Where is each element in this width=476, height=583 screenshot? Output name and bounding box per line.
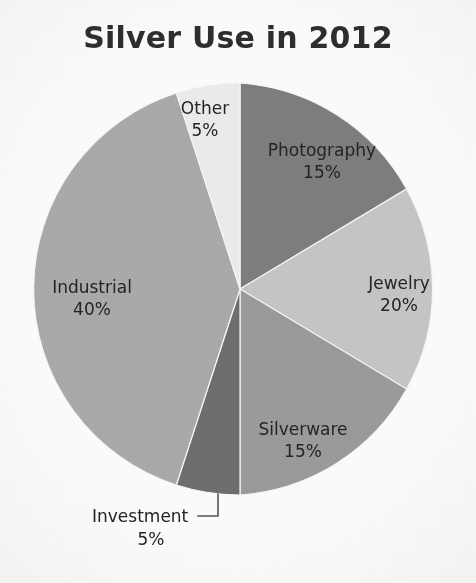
slice-label-photography: Photography 15%: [268, 140, 376, 184]
slice-label-industrial-name: Industrial: [52, 277, 132, 299]
slice-label-photography-percent: 15%: [268, 162, 376, 184]
slice-label-silverware-percent: 15%: [258, 441, 347, 463]
slice-label-investment-percent: 5%: [92, 529, 210, 551]
slice-label-industrial: Industrial 40%: [52, 277, 132, 321]
slice-label-jewelry-name: Jewelry: [368, 273, 430, 295]
scanned-page: Silver Use in 2012 Photography 15% Jewel…: [0, 0, 476, 583]
slice-label-jewelry-percent: 20%: [368, 295, 430, 317]
slice-label-industrial-percent: 40%: [52, 299, 132, 321]
slice-label-jewelry: Jewelry 20%: [368, 273, 430, 317]
slice-label-silverware: Silverware 15%: [258, 419, 347, 463]
investment-leader-line: [196, 493, 236, 527]
slice-label-silverware-name: Silverware: [258, 419, 347, 441]
slice-label-investment-name: Investment: [92, 506, 188, 528]
chart-title: Silver Use in 2012: [0, 20, 476, 55]
slice-label-other: Other 5%: [181, 98, 229, 142]
slice-label-photography-name: Photography: [268, 140, 376, 162]
slice-label-other-percent: 5%: [181, 120, 229, 142]
slice-label-other-name: Other: [181, 98, 229, 120]
slice-label-investment: Investment 5%: [92, 506, 210, 551]
